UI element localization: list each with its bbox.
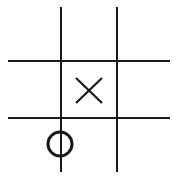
cell-2-1[interactable] xyxy=(62,119,116,172)
tic-tac-toe-board xyxy=(0,0,174,177)
cell-1-2[interactable] xyxy=(118,62,170,117)
cell-1-1[interactable] xyxy=(62,62,116,117)
cell-2-0[interactable] xyxy=(8,119,60,172)
cell-0-2[interactable] xyxy=(118,7,170,60)
cell-0-0[interactable] xyxy=(8,7,60,60)
cell-1-0[interactable] xyxy=(8,62,60,117)
cell-2-2[interactable] xyxy=(118,119,170,172)
x-mark-icon xyxy=(62,62,116,117)
cell-0-1[interactable] xyxy=(62,7,116,60)
